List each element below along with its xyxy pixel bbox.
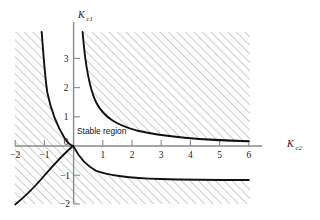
y-tick-label--2: −2	[60, 199, 70, 209]
chart-svg: −2 −1 1 2 3 4 5 6 3 2 1 0 −1 −2 K c1 K c…	[0, 0, 320, 220]
x-tick-label-1: 1	[100, 150, 105, 160]
x-axis-label-main: K	[286, 138, 295, 149]
y-tick-label-0: 0	[64, 137, 69, 147]
y-tick-label-3: 3	[64, 54, 69, 64]
x-tick-label--2: −2	[10, 150, 20, 160]
x-tick-label-2: 2	[130, 150, 135, 160]
stability-region-figure: −2 −1 1 2 3 4 5 6 3 2 1 0 −1 −2 K c1 K c…	[0, 0, 320, 220]
x-axis-label: K c2	[286, 138, 303, 152]
x-tick-label-4: 4	[188, 150, 193, 160]
y-axis-label-sub: c1	[87, 15, 94, 23]
y-axis-label-main: K	[77, 9, 86, 20]
x-tick-label-6: 6	[246, 150, 251, 160]
x-tick-labels: −2 −1 1 2 3 4 5 6	[10, 150, 251, 160]
x-tick-label--1: −1	[39, 150, 49, 160]
x-axis-label-sub: c2	[296, 144, 303, 152]
y-axis-label: K c1	[77, 9, 93, 23]
x-tick-label-5: 5	[217, 150, 222, 160]
y-tick-label--1: −1	[60, 171, 70, 181]
stable-region-label: Stable region	[77, 126, 127, 136]
y-tick-label-2: 2	[64, 83, 69, 93]
y-tick-label-1: 1	[64, 112, 69, 122]
hatch-region-upper-right	[83, 32, 250, 141]
x-tick-label-3: 3	[159, 150, 164, 160]
